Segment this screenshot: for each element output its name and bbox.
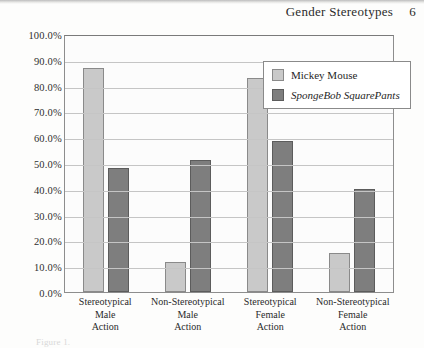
gridline bbox=[65, 165, 393, 166]
x-category-line: Action bbox=[313, 321, 394, 334]
gridline bbox=[65, 242, 393, 243]
legend-label: SpongeBob SquarePants bbox=[291, 89, 400, 101]
y-tick-label: 20.0% bbox=[34, 236, 62, 247]
x-category-line: Male bbox=[148, 309, 229, 322]
x-axis: StereotypicalMaleActionNon-Stereotypical… bbox=[64, 296, 394, 334]
gridline bbox=[65, 268, 393, 269]
gridline bbox=[65, 191, 393, 192]
x-category-line: Female bbox=[313, 309, 394, 322]
x-category-line: Stereotypical bbox=[230, 296, 311, 309]
running-header: Gender Stereotypes 6 bbox=[286, 4, 416, 20]
x-category-line: Action bbox=[65, 321, 146, 334]
x-category-line: Male bbox=[65, 309, 146, 322]
caption-remnant: Figure 1. bbox=[36, 337, 70, 347]
bar-mickey-mouse bbox=[83, 68, 104, 292]
legend-swatch-icon bbox=[272, 89, 284, 101]
gridline bbox=[65, 113, 393, 114]
x-category-label: Non-StereotypicalMaleAction bbox=[147, 296, 230, 334]
running-title: Gender Stereotypes bbox=[286, 4, 394, 20]
legend-swatch-icon bbox=[272, 69, 284, 81]
scanned-page: Gender Stereotypes 6 0.0%10.0%20.0%30.0%… bbox=[0, 0, 424, 348]
y-tick-label: 60.0% bbox=[34, 133, 62, 144]
x-category-label: Non-StereotypicalFemaleAction bbox=[312, 296, 395, 334]
legend-item: Mickey Mouse bbox=[272, 69, 400, 81]
x-category-line: Action bbox=[230, 321, 311, 334]
x-category-label: StereotypicalMaleAction bbox=[64, 296, 147, 334]
bar-group bbox=[65, 36, 147, 292]
x-category-line: Stereotypical bbox=[65, 296, 146, 309]
legend-item: SpongeBob SquarePants bbox=[272, 89, 400, 101]
y-axis: 0.0%10.0%20.0%30.0%40.0%50.0%60.0%70.0%8… bbox=[8, 26, 62, 298]
bar-group bbox=[147, 36, 229, 292]
y-tick-label: 50.0% bbox=[34, 159, 62, 170]
y-tick-label: 0.0% bbox=[39, 288, 62, 299]
y-tick-label: 90.0% bbox=[34, 55, 62, 66]
x-category-line: Non-Stereotypical bbox=[313, 296, 394, 309]
chart-legend: Mickey MouseSpongeBob SquarePants bbox=[263, 61, 411, 109]
bar-spongebob-squarepants bbox=[354, 189, 375, 292]
x-category-line: Non-Stereotypical bbox=[148, 296, 229, 309]
x-category-line: Action bbox=[148, 321, 229, 334]
bar-mickey-mouse bbox=[329, 253, 350, 292]
page-number: 6 bbox=[409, 4, 416, 20]
legend-label: Mickey Mouse bbox=[291, 69, 357, 81]
y-tick-label: 70.0% bbox=[34, 107, 62, 118]
bar-spongebob-squarepants bbox=[108, 168, 129, 292]
y-tick-label: 100.0% bbox=[28, 30, 62, 41]
x-category-label: StereotypicalFemaleAction bbox=[229, 296, 312, 334]
bar-mickey-mouse bbox=[165, 262, 186, 292]
bar-chart-figure: 0.0%10.0%20.0%30.0%40.0%50.0%60.0%70.0%8… bbox=[0, 26, 424, 326]
gridline bbox=[65, 217, 393, 218]
x-category-line: Female bbox=[230, 309, 311, 322]
bar-mickey-mouse bbox=[247, 78, 268, 292]
y-tick-label: 30.0% bbox=[34, 210, 62, 221]
y-tick-label: 10.0% bbox=[34, 262, 62, 273]
y-tick-label: 80.0% bbox=[34, 81, 62, 92]
bar-spongebob-squarepants bbox=[190, 160, 211, 292]
chart-inner: 0.0%10.0%20.0%30.0%40.0%50.0%60.0%70.0%8… bbox=[0, 26, 424, 326]
y-tick-label: 40.0% bbox=[34, 184, 62, 195]
gridline bbox=[65, 139, 393, 140]
